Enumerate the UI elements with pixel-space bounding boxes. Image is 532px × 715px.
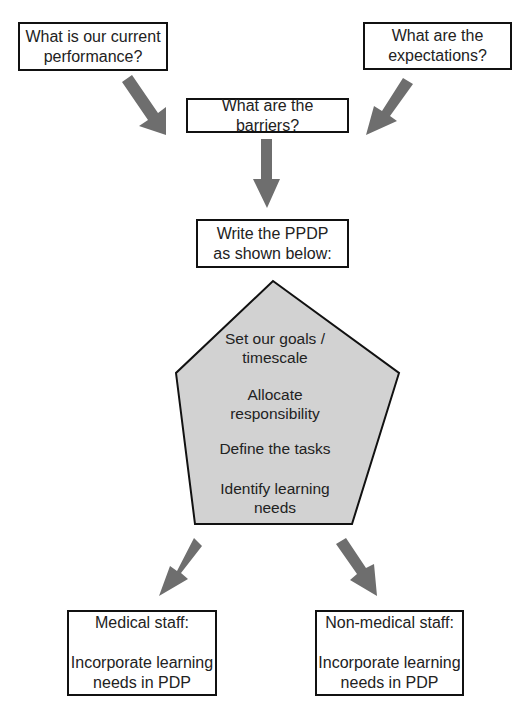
arrow-down-left (366, 78, 413, 135)
box-line: What are the barriers? (188, 96, 347, 136)
box-line: performance? (44, 47, 143, 67)
write-ppdp-box: Write the PPDP as shown below: (196, 219, 349, 268)
non-medical-staff-box: Non-medical staff: Incorporate learning … (315, 610, 464, 696)
arrow-down-right-bottom (336, 538, 377, 596)
box-line: expectations? (388, 46, 487, 66)
pentagon-item-learning-needs: Identify learning needs (195, 479, 355, 517)
arrow-down (253, 139, 280, 208)
pentagon-line: Allocate (195, 385, 355, 404)
medical-staff-box: Medical staff: Incorporate learning need… (67, 610, 217, 696)
box-line: needs in PDP (93, 673, 191, 693)
box-line: What is our current (25, 27, 160, 47)
expectations-box: What are the expectations? (363, 22, 512, 70)
box-line: What are the (392, 26, 484, 46)
box-line: Medical staff: (95, 613, 189, 633)
pentagon-line: Set our goals / (195, 329, 355, 348)
pentagon-line: responsibility (195, 404, 355, 423)
box-line: Write the PPDP (217, 224, 329, 244)
pentagon-item-tasks: Define the tasks (195, 439, 355, 458)
arrow-down-right (122, 75, 166, 135)
pentagon-line: timescale (195, 348, 355, 367)
current-performance-box: What is our current performance? (18, 22, 168, 71)
pentagon-line: needs (195, 498, 355, 517)
pentagon-item-responsibility: Allocate responsibility (195, 385, 355, 423)
box-line: Incorporate learning (318, 653, 460, 673)
box-line: Incorporate learning (71, 653, 213, 673)
pentagon-item-goals: Set our goals / timescale (195, 329, 355, 367)
box-line: needs in PDP (341, 673, 439, 693)
box-line: Non-medical staff: (325, 613, 454, 633)
barriers-box: What are the barriers? (186, 98, 349, 133)
pentagon-line: Identify learning (195, 479, 355, 498)
box-line: as shown below: (213, 244, 331, 264)
arrow-down-left-bottom (159, 538, 202, 596)
pentagon-line: Define the tasks (195, 439, 355, 458)
